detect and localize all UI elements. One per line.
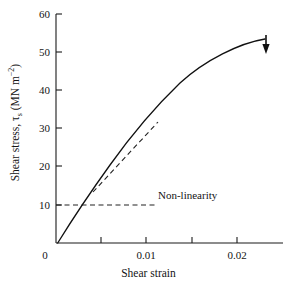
failure-arrow-icon xyxy=(262,35,269,54)
y-axis-label: Shear stress, τs (MN m−2) xyxy=(7,64,24,182)
y-tick-label-50: 50 xyxy=(28,47,50,58)
y-axis-label-wrapper: Shear stress, τs (MN m−2) xyxy=(4,0,28,245)
y-tick-marks xyxy=(56,14,62,205)
axes-group xyxy=(56,14,283,243)
x-tick-label-0: 0 xyxy=(42,250,48,261)
y-tick-label-30: 30 xyxy=(28,123,50,134)
y-axis-label-units-exponent: −2 xyxy=(7,68,16,77)
x-tick-marks xyxy=(101,237,237,243)
y-axis-label-units-pre: (MN m xyxy=(9,76,21,113)
y-tick-label-20: 20 xyxy=(28,161,50,172)
y-tick-label-40: 40 xyxy=(28,85,50,96)
stress-strain-curve xyxy=(58,39,265,243)
y-tick-label-10: 10 xyxy=(28,200,50,211)
y-axis-label-symbol: τ xyxy=(9,116,21,121)
x-tick-label-002: 0.02 xyxy=(227,250,246,261)
chart-figure: 60 50 40 30 20 10 0 0.01 0.02 Non-linear… xyxy=(0,0,297,290)
non-linearity-annotation: Non-linearity xyxy=(158,189,217,201)
shear-stress-strain-plot xyxy=(0,0,297,290)
y-axis-label-main: Shear stress, xyxy=(9,121,21,181)
x-axis-label: Shear strain xyxy=(0,267,297,279)
y-tick-label-60: 60 xyxy=(28,9,50,20)
y-axis-label-units-post: ) xyxy=(9,64,21,68)
elastic-tangent-line xyxy=(93,122,158,192)
x-tick-label-001: 0.01 xyxy=(136,250,155,261)
y-axis-label-subscript: s xyxy=(16,113,25,116)
